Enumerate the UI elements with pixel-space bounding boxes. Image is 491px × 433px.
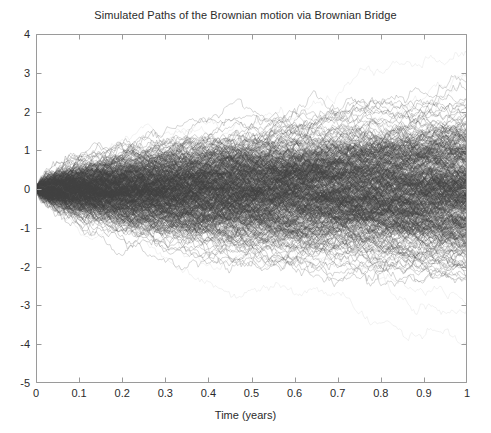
x-tick-label: 0.2 xyxy=(115,387,130,399)
x-tick-label: 0.7 xyxy=(330,387,345,399)
x-tick-label: 0 xyxy=(33,387,39,399)
y-tick-label: 2 xyxy=(0,106,30,118)
x-tick-label: 0.8 xyxy=(373,387,388,399)
x-tick-label: 0.1 xyxy=(71,387,86,399)
page-title: Simulated Paths of the Brownian motion v… xyxy=(0,9,491,21)
x-tick-label: 0.9 xyxy=(416,387,431,399)
plot-area xyxy=(36,34,467,383)
x-tick-label: 0.4 xyxy=(201,387,216,399)
y-tick-label: 4 xyxy=(0,28,30,40)
x-axis-label: Time (years) xyxy=(0,409,491,421)
y-tick-label: -5 xyxy=(0,377,30,389)
x-tick-label: 1 xyxy=(464,387,470,399)
axes-frame xyxy=(36,34,467,383)
y-tick-label: 1 xyxy=(0,144,30,156)
chart-figure: Simulated Paths of the Brownian motion v… xyxy=(0,0,491,433)
y-tick-label: -1 xyxy=(0,222,30,234)
y-tick-label: -3 xyxy=(0,299,30,311)
x-tick-label: 0.5 xyxy=(244,387,259,399)
y-tick-label: -2 xyxy=(0,261,30,273)
y-tick-label: -4 xyxy=(0,338,30,350)
x-tick-label: 0.6 xyxy=(287,387,302,399)
x-tick-label: 0.3 xyxy=(158,387,173,399)
y-tick-label: 0 xyxy=(0,183,30,195)
y-tick-label: 3 xyxy=(0,67,30,79)
